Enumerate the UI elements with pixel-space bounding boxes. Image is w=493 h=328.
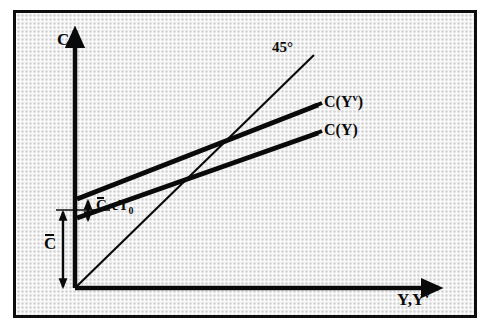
autonomous-consumption-overbar-group: C (44, 235, 56, 252)
consumption-gross-label: C(Y) (324, 122, 358, 138)
consumption-function-figure: C Y,Yv 45° C(Yv) C(Y) C C-cT0 (0, 0, 493, 328)
consumption-disposable-label-prefix: C(Y (324, 93, 352, 110)
overbar-glyph (97, 197, 105, 199)
overbar-glyph (45, 234, 54, 236)
intercept-gap-label: C-cT0 (96, 198, 133, 213)
forty-five-degree-label: 45° (272, 40, 293, 55)
consumption-disposable-label-suffix: ) (358, 93, 363, 110)
horizontal-axis-label: Y,Yv (397, 291, 430, 308)
consumption-disposable-label: C(Yv) (324, 94, 363, 110)
horizontal-axis-label-text: Y,Y (397, 290, 424, 309)
vertical-axis-label: C (57, 31, 69, 48)
figure-frame (13, 10, 477, 318)
intercept-gap-label-suffix: -cT (107, 197, 129, 213)
intercept-gap-label-prefix: C (96, 197, 107, 213)
autonomous-consumption-label: C (44, 235, 56, 252)
intercept-gap-overbar-group: C (96, 198, 107, 213)
intercept-gap-label-subscript: 0 (129, 205, 134, 216)
horizontal-axis-label-superscript: v (424, 288, 430, 300)
autonomous-consumption-letter: C (44, 234, 56, 253)
